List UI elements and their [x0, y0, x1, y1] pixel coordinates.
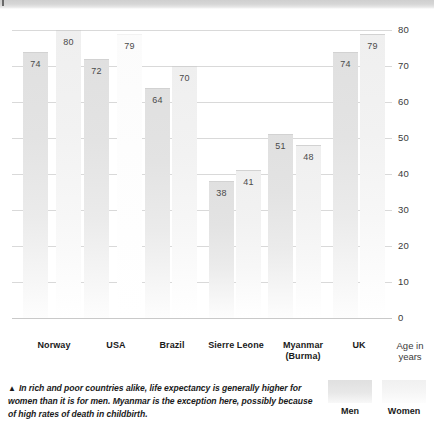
category-label-brazil: Brazil	[144, 340, 200, 351]
bar-norway-men: 74	[23, 52, 48, 318]
legend-item-men: Men	[326, 380, 374, 416]
bar-value-label: 48	[296, 152, 321, 162]
bar-uk-women: 79	[360, 34, 385, 318]
legend-label-men: Men	[326, 406, 374, 416]
bar-fill	[236, 170, 261, 318]
legend-swatch-women	[382, 380, 426, 403]
page-edge-tick	[2, 0, 4, 6]
life-expectancy-bar-chart: 74 80 72 79 64	[0, 12, 434, 337]
y-axis-title: Age in years	[386, 340, 434, 362]
figure-caption-text: In rich and poor countries alike, life e…	[8, 383, 312, 419]
bar-myanmar-women: 48	[296, 145, 321, 318]
y-axis-tick-20: 20	[398, 240, 432, 251]
category-label-usa: USA	[84, 340, 148, 351]
bar-value-label: 79	[117, 41, 142, 51]
y-axis-tick-80: 80	[398, 24, 432, 35]
category-label-myanmar-line2: (Burma)	[272, 351, 334, 362]
plot-area: 74 80 72 79 64	[0, 12, 392, 337]
chart-legend: Men Women	[326, 380, 434, 436]
y-axis-title-line1: Age in	[386, 340, 434, 351]
bar-fill	[117, 34, 142, 318]
bar-value-label: 74	[23, 59, 48, 69]
bar-series-group: 74 80 72 79 64	[0, 12, 392, 337]
bar-value-label: 51	[268, 141, 293, 151]
y-axis-tick-50: 50	[398, 132, 432, 143]
bar-value-label: 64	[145, 95, 170, 105]
bar-value-label: 70	[172, 73, 197, 83]
bar-myanmar-men: 51	[268, 134, 293, 318]
bar-cap	[268, 134, 293, 135]
bar-value-label: 79	[360, 41, 385, 51]
figure-caption: ▲In rich and poor countries alike, life …	[8, 382, 320, 420]
y-axis-tick-30: 30	[398, 204, 432, 215]
y-axis-tick-70: 70	[398, 60, 432, 71]
bar-brazil-men: 64	[145, 88, 170, 318]
y-axis-tick-0: 0	[398, 312, 432, 323]
bar-fill	[360, 34, 385, 318]
triangle-marker-icon: ▲	[8, 384, 16, 393]
bar-cap	[333, 52, 358, 53]
bar-norway-women: 80	[56, 30, 81, 318]
bar-usa-men: 72	[84, 59, 109, 318]
category-label-sierre-leone: Sierre Leone	[198, 340, 274, 351]
bar-fill	[145, 88, 170, 318]
bar-brazil-women: 70	[172, 66, 197, 318]
legend-label-women: Women	[380, 406, 428, 416]
category-label-norway: Norway	[22, 340, 86, 351]
bar-value-label: 74	[333, 59, 358, 69]
bar-cap	[296, 145, 321, 146]
bar-cap	[117, 34, 142, 35]
bar-cap	[236, 170, 261, 171]
bar-fill	[333, 52, 358, 318]
legend-swatch-men	[328, 380, 372, 403]
bar-sierre-leone-women: 41	[236, 170, 261, 318]
bar-cap	[56, 30, 81, 31]
y-axis-tick-60: 60	[398, 96, 432, 107]
bar-value-label: 80	[56, 37, 81, 47]
y-axis-tick-10: 10	[398, 276, 432, 287]
bar-cap	[145, 88, 170, 89]
bar-cap	[23, 52, 48, 53]
bar-fill	[56, 30, 81, 318]
bar-value-label: 38	[209, 188, 234, 198]
legend-item-women: Women	[380, 380, 428, 416]
bar-value-label: 41	[236, 177, 261, 187]
bar-cap	[172, 66, 197, 67]
y-axis-tick-40: 40	[398, 168, 432, 179]
bar-usa-women: 79	[117, 34, 142, 318]
category-label-myanmar: Myanmar (Burma)	[272, 340, 334, 362]
category-label-myanmar-line1: Myanmar	[272, 340, 334, 351]
bar-fill	[172, 66, 197, 318]
category-label-uk: UK	[336, 340, 382, 351]
bar-fill	[296, 145, 321, 318]
y-axis-title-line2: years	[386, 351, 434, 362]
bar-fill	[268, 134, 293, 318]
bar-uk-men: 74	[333, 52, 358, 318]
page-edge-band	[0, 0, 434, 9]
bar-cap	[84, 59, 109, 60]
bar-fill	[84, 59, 109, 318]
category-axis-labels: Norway USA Brazil Sierre Leone Myanmar (…	[0, 340, 434, 374]
bar-cap	[360, 34, 385, 35]
bar-fill	[23, 52, 48, 318]
bar-value-label: 72	[84, 66, 109, 76]
bar-sierre-leone-men: 38	[209, 181, 234, 318]
bar-fill	[209, 181, 234, 318]
bar-cap	[209, 181, 234, 182]
